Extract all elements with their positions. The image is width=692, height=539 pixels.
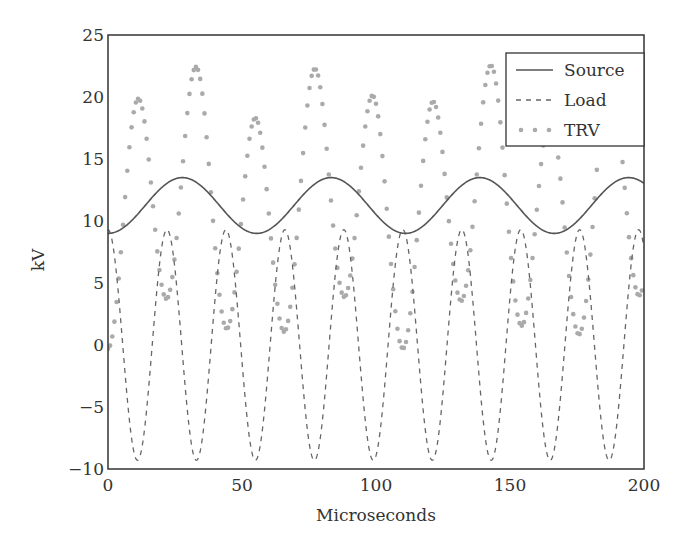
trv-point	[397, 339, 402, 344]
trv-point	[204, 135, 209, 140]
trv-point	[494, 81, 499, 86]
trv-point	[449, 241, 454, 246]
trv-point	[131, 110, 136, 115]
series-source	[108, 178, 644, 234]
trv-point	[110, 334, 115, 339]
trv-point	[125, 169, 130, 174]
y-tick-label: −5	[79, 397, 104, 417]
trv-point	[286, 319, 291, 324]
trv-point	[620, 160, 625, 165]
trv-point	[327, 172, 332, 177]
trv-point	[254, 116, 259, 121]
trv-point	[151, 204, 156, 209]
trv-point	[489, 64, 494, 69]
trv-point	[631, 273, 636, 278]
trv-point	[352, 236, 357, 241]
trv-point	[114, 300, 119, 305]
trv-point	[374, 101, 379, 106]
trv-point	[380, 154, 385, 159]
trv-point	[440, 150, 445, 155]
trv-point	[532, 232, 537, 237]
trv-point	[213, 246, 218, 251]
trv-point	[395, 327, 400, 332]
trv-point	[526, 296, 531, 301]
legend-label: TRV	[564, 120, 601, 140]
trv-point	[622, 186, 627, 191]
trv-point	[230, 307, 235, 312]
trv-point	[123, 195, 128, 200]
trv-point	[211, 219, 216, 224]
trv-point	[539, 162, 544, 167]
y-tick-label: 20	[82, 87, 104, 107]
trv-point	[157, 268, 162, 273]
trv-point	[479, 122, 484, 127]
legend-swatch	[547, 128, 552, 133]
trv-point	[202, 111, 207, 116]
chart: 050100150200 −10−50510152025 Microsecond…	[0, 0, 692, 539]
trv-point	[378, 132, 383, 137]
trv-point	[513, 298, 518, 303]
trv-point	[367, 98, 372, 103]
trv-point	[174, 236, 179, 241]
trv-point	[477, 146, 482, 151]
trv-point	[260, 145, 265, 150]
trv-point	[305, 103, 310, 108]
trv-point	[580, 327, 585, 332]
x-tick-label: 50	[231, 475, 253, 495]
trv-point	[228, 319, 233, 324]
trv-point	[294, 236, 299, 241]
trv-point	[318, 85, 323, 90]
trv-point	[344, 293, 349, 298]
trv-point	[528, 278, 533, 283]
trv-point	[221, 320, 226, 325]
trv-point	[333, 246, 338, 251]
y-axis-label: kV	[28, 248, 48, 271]
x-tick-label: 0	[103, 475, 114, 495]
trv-point	[301, 151, 306, 156]
trv-point	[324, 146, 329, 151]
trv-point	[560, 200, 565, 205]
trv-point	[243, 174, 248, 179]
trv-point	[421, 159, 426, 164]
trv-point	[522, 320, 527, 325]
trv-point	[577, 332, 582, 337]
trv-point	[146, 157, 151, 162]
trv-point	[277, 316, 282, 321]
trv-point	[414, 238, 419, 243]
trv-point	[149, 180, 154, 185]
trv-point	[504, 201, 509, 206]
trv-point	[256, 120, 261, 125]
trv-point	[299, 179, 304, 184]
trv-point	[535, 207, 540, 212]
trv-point	[509, 256, 514, 261]
trv-point	[119, 250, 124, 255]
series-load	[108, 230, 644, 461]
trv-point	[590, 225, 595, 230]
trv-point	[275, 302, 280, 307]
trv-point	[425, 120, 430, 125]
y-tick-label: 5	[93, 273, 104, 293]
trv-point	[365, 109, 370, 114]
trv-point	[556, 155, 561, 160]
trv-point	[537, 184, 542, 189]
trv-point	[337, 281, 342, 286]
trv-point	[262, 165, 267, 170]
trv-point	[432, 100, 437, 105]
trv-point	[142, 119, 147, 124]
x-tick-label: 100	[360, 475, 392, 495]
trv-point	[359, 165, 364, 170]
trv-point	[348, 273, 353, 278]
trv-point	[316, 73, 321, 78]
trv-point	[329, 198, 334, 203]
trv-point	[393, 309, 398, 314]
trv-point	[402, 346, 407, 351]
trv-point	[127, 145, 132, 150]
trv-point	[453, 278, 458, 283]
trv-point	[269, 236, 274, 241]
trv-point	[455, 290, 460, 295]
trv-point	[273, 283, 278, 288]
trv-point	[436, 115, 441, 120]
x-axis-label: Microseconds	[316, 505, 436, 525]
trv-point	[284, 327, 289, 332]
trv-point	[320, 102, 325, 107]
